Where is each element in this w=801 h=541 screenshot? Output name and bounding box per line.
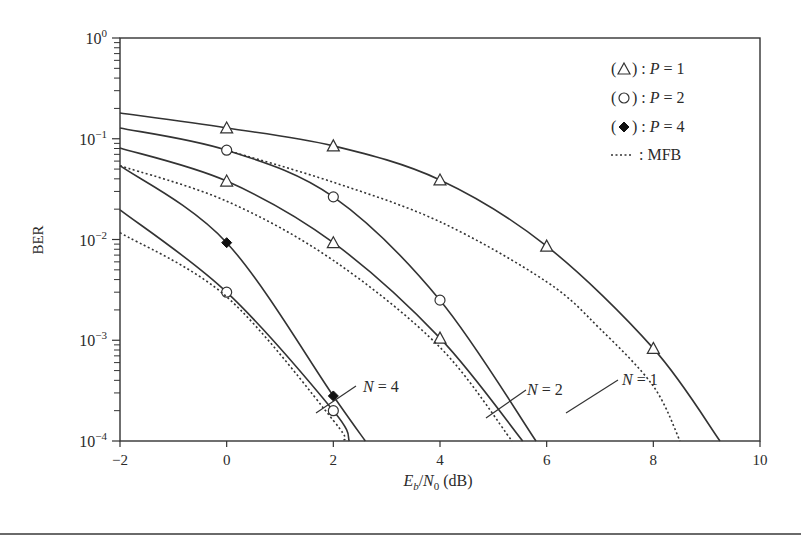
x-tick-label: 6 xyxy=(543,452,551,468)
circle-marker-icon xyxy=(619,93,629,103)
legend-label: ) : P = 1 xyxy=(632,60,685,78)
mfb-curve xyxy=(227,150,680,441)
x-tick-label: −2 xyxy=(112,452,128,468)
triangle-marker-icon xyxy=(221,175,233,186)
circle-marker-icon xyxy=(435,295,445,305)
y-tick-label: 10−3 xyxy=(79,329,107,349)
annotation-label: N = 1 xyxy=(621,371,658,388)
legend-entry-triangle: () : P = 1 xyxy=(611,60,685,78)
ber-curve xyxy=(120,128,536,441)
x-axis-label: Eb/N0 (dB) xyxy=(402,472,472,492)
circle-marker-icon xyxy=(328,406,338,416)
x-tick-label: 8 xyxy=(650,452,658,468)
legend: () : P = 1() : P = 2() : P = 4: MFB xyxy=(611,60,685,163)
legend-paren: ( xyxy=(611,60,616,78)
y-axis-label: BER xyxy=(30,225,46,254)
axis-labels: BER Eb/N0 (dB) xyxy=(30,225,473,492)
circle-marker-icon xyxy=(222,287,232,297)
x-tick-label: 4 xyxy=(436,452,444,468)
annotation-label: N = 4 xyxy=(362,378,399,395)
legend-entry-dotted: : MFB xyxy=(611,146,681,163)
ber-curve xyxy=(120,166,365,441)
series-n-1-mfb xyxy=(227,150,680,441)
page-bottom-rule xyxy=(0,533,801,535)
triangle-marker-icon xyxy=(434,174,446,185)
series-n-4-mfb xyxy=(120,233,345,441)
legend-entry-circle: () : P = 2 xyxy=(611,89,685,107)
series-n-4-p-2 xyxy=(120,210,349,441)
x-tick-label: 2 xyxy=(330,452,338,468)
data-series xyxy=(120,113,720,441)
mfb-curve xyxy=(120,166,512,441)
ber-curve xyxy=(120,210,349,441)
x-tick-label: 10 xyxy=(753,452,768,468)
triangle-marker-icon xyxy=(618,63,630,74)
circle-marker-icon xyxy=(222,145,232,155)
y-tick-label: 100 xyxy=(86,27,108,47)
x-tick-label: 0 xyxy=(223,452,231,468)
circle-marker-icon xyxy=(328,192,338,202)
ber-chart: −2024681010010−110−210−310−4 N = 1N = 2N… xyxy=(0,0,801,541)
diamond-marker-icon xyxy=(619,122,629,132)
y-tick-label: 10−2 xyxy=(79,229,107,249)
y-tick-label: 10−4 xyxy=(79,430,107,450)
y-tick-label: 10−1 xyxy=(79,128,107,148)
legend-label: ) : P = 2 xyxy=(632,89,685,107)
legend-paren: ( xyxy=(611,118,616,136)
annotation-label: N = 2 xyxy=(526,381,563,398)
legend-paren: ( xyxy=(611,89,616,107)
series-n-2-p-2 xyxy=(120,128,536,441)
annotation-leader xyxy=(566,380,618,413)
mfb-curve xyxy=(120,233,345,441)
legend-entry-diamond: () : P = 4 xyxy=(611,118,685,136)
series-n-2-mfb xyxy=(120,166,512,441)
legend-label: ) : P = 4 xyxy=(632,118,685,136)
legend-label: : MFB xyxy=(639,146,681,163)
series-n-4-p-4 xyxy=(120,166,365,441)
triangle-marker-icon xyxy=(541,240,553,251)
triangle-marker-icon xyxy=(327,237,339,248)
